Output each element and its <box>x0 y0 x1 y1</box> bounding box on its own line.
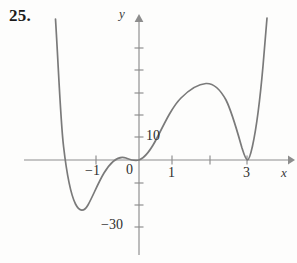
x-tick-label-3: 3 <box>243 165 250 181</box>
y-axis-arrowhead <box>135 14 144 22</box>
origin-label: 0 <box>126 162 133 178</box>
y-tick-label-neg30: −30 <box>101 217 123 233</box>
figure-page: 25. y x −1 0 1 3 10 −30 <box>0 0 297 263</box>
x-tick-label-neg1: −1 <box>85 163 100 179</box>
x-axis-arrowhead <box>288 156 295 165</box>
y-axis-label: y <box>119 6 125 22</box>
polynomial-curve <box>56 18 268 210</box>
x-axis-label: x <box>281 165 287 181</box>
x-tick-label-1: 1 <box>168 165 175 181</box>
y-tick-label-10: 10 <box>146 128 160 144</box>
